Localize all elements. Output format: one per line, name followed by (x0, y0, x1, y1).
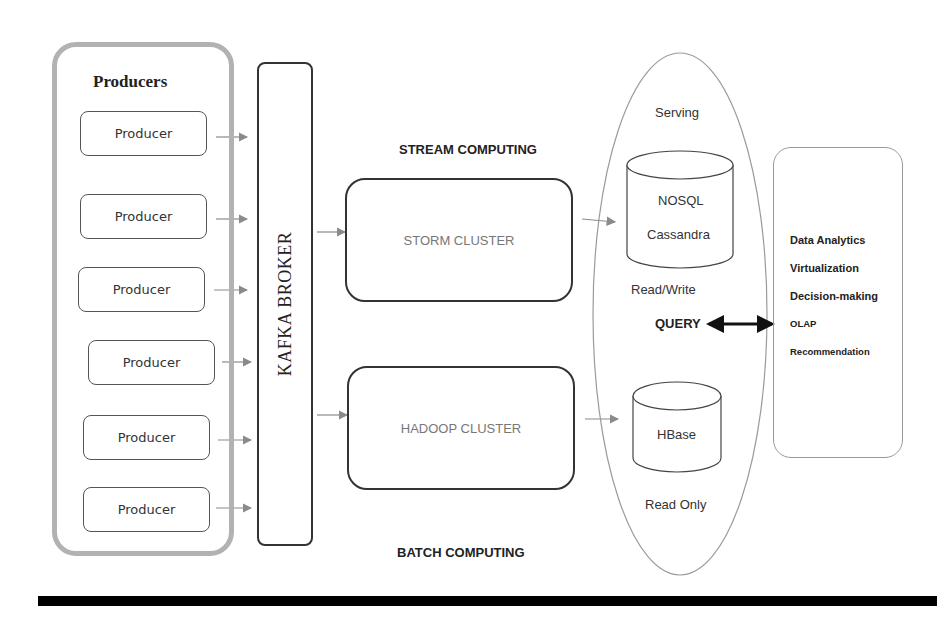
app-item-recommendation: Recommendation (790, 345, 878, 373)
read-write-label: Read/Write (631, 282, 696, 297)
storm-cluster-box: STORM CLUSTER (345, 178, 573, 302)
query-label: QUERY (655, 316, 701, 331)
cluster-to-serving-arrows (582, 219, 618, 419)
storm-cluster-label: STORM CLUSTER (404, 233, 515, 248)
serving-title: Serving (655, 105, 699, 120)
producer-box-1: Producer (80, 111, 207, 156)
app-item-olap: OLAP (790, 317, 878, 345)
stream-computing-label: STREAM COMPUTING (399, 142, 537, 157)
producers-title: Producers (93, 72, 167, 92)
broker-to-cluster-arrows (317, 232, 347, 415)
kafka-broker-label: KAFKA BROKER (275, 232, 296, 377)
app-item-virtualization: Virtualization (790, 261, 878, 289)
producer-label: Producer (115, 209, 173, 224)
batch-computing-label: BATCH COMPUTING (397, 545, 525, 560)
applications-list: Data Analytics Virtualization Decision-m… (790, 233, 878, 373)
hbase-label: HBase (657, 427, 696, 442)
bottom-divider-bar (38, 596, 937, 606)
kafka-broker-box: KAFKA BROKER (257, 62, 313, 546)
applications-box: Data Analytics Virtualization Decision-m… (773, 147, 903, 458)
app-item-data-analytics: Data Analytics (790, 233, 878, 261)
hadoop-cluster-box: HADOOP CLUSTER (347, 366, 575, 490)
producer-box-3: Producer (78, 267, 205, 312)
producer-label: Producer (123, 355, 181, 370)
app-item-decision-making: Decision-making (790, 289, 878, 317)
producer-box-2: Producer (80, 194, 207, 239)
producer-box-5: Producer (83, 415, 210, 460)
producer-box-4: Producer (88, 340, 215, 385)
read-only-label: Read Only (645, 497, 706, 512)
producer-box-6: Producer (83, 487, 210, 532)
producer-label: Producer (118, 430, 176, 445)
producer-label: Producer (115, 126, 173, 141)
nosql-label: NOSQL (658, 193, 704, 208)
producer-label: Producer (118, 502, 176, 517)
cassandra-label: Cassandra (647, 227, 710, 242)
cassandra-database-icon (627, 151, 733, 268)
producer-label: Producer (113, 282, 171, 297)
hadoop-cluster-label: HADOOP CLUSTER (401, 421, 521, 436)
